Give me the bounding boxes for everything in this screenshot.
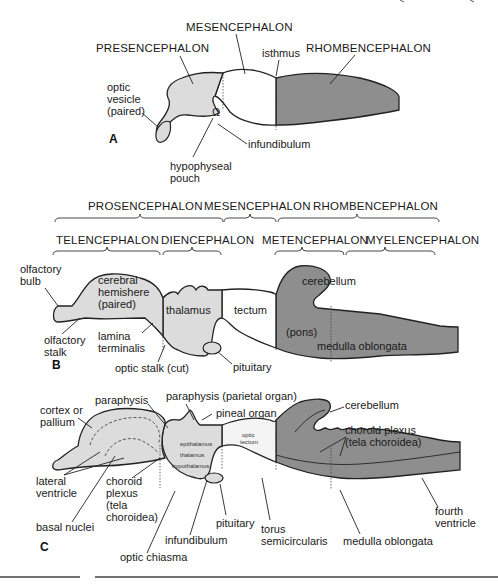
label-cortex: cortex or [40, 404, 83, 416]
label-paraphysis-parietal: paraphysis (parietal organ) [166, 390, 297, 402]
label-choroid-plexus-left: choroid [106, 475, 142, 487]
label-olfactory-bulb: olfactory [20, 263, 62, 275]
svg-text:pouch: pouch [170, 172, 200, 184]
label-olfactory-stalk: olfactory [44, 334, 86, 346]
svg-text:stalk: stalk [44, 346, 67, 358]
label-choroid-plexus-right: choroid plexus [345, 424, 416, 436]
panel-b: PROSENCEPHALON MESENCEPHALON RHOMBENCEPH… [20, 200, 479, 374]
label-mesencephalon: MESENCEPHALON [186, 21, 293, 33]
label-pineal-organ: pineal organ [216, 407, 277, 419]
pituitary-c [205, 473, 223, 483]
label-paraphysis: paraphysis [95, 394, 149, 406]
label-telencephalon: TELENCEPHALON [56, 234, 159, 246]
svg-text:(paired): (paired) [98, 298, 136, 310]
label-hypothalamus: hypothalamus [172, 463, 209, 469]
label-infundibulum-c: infundibulum [165, 534, 227, 546]
rhombencephalon-region [276, 74, 399, 126]
label-hypophyseal-pouch: hypophyseal [170, 160, 232, 172]
svg-text:plexus: plexus [106, 487, 138, 499]
svg-text:tectum: tectum [240, 439, 258, 445]
panel-letter-c: C [40, 540, 49, 554]
brain-diagram: Ω MESENCEPHALON PRESENCEPHALON isthmus R… [0, 0, 498, 587]
label-lamina-terminalis: lamina [98, 330, 131, 342]
label-basal-nuclei: basal nuclei [36, 521, 94, 533]
panel-c: epithalamus thalamus hypothalamus optic … [36, 390, 476, 563]
mesencephalon-region [215, 69, 276, 125]
label-infundibulum: infundibulum [248, 138, 310, 150]
label-rhombencephalon-b: RHOMBENCEPHALON [313, 200, 438, 212]
panel-a: Ω MESENCEPHALON PRESENCEPHALON isthmus R… [96, 21, 431, 184]
label-torus: torus [261, 523, 286, 535]
svg-text:(tela: (tela [106, 499, 128, 511]
label-presencephalon: PRESENCEPHALON [96, 42, 209, 54]
label-pituitary-b: pituitary [233, 361, 272, 373]
panel-letter-b: B [52, 358, 61, 372]
label-cerebellum-b: cerebellum [302, 275, 356, 287]
svg-text:vesicle: vesicle [107, 93, 141, 105]
label-epithalamus: epithalamus [180, 441, 212, 447]
svg-text:ventricle: ventricle [36, 487, 77, 499]
label-prosencephalon: PROSENCEPHALON [88, 200, 203, 212]
label-metencephalon: METENCEPHALON [262, 234, 368, 246]
svg-text:pallium: pallium [40, 416, 75, 428]
label-medulla-b: medulla oblongata [317, 340, 408, 352]
svg-text:(paired): (paired) [107, 105, 145, 117]
svg-text:(tela choroidea): (tela choroidea) [345, 436, 421, 448]
svg-text:ventricle: ventricle [435, 517, 476, 529]
label-cerebellum-c: cerebellum [345, 399, 399, 411]
label-optic-chiasma: optic chiasma [120, 551, 188, 563]
tectum-region [222, 289, 276, 348]
svg-text:choroidea): choroidea) [106, 511, 158, 523]
svg-text:semicircularis: semicircularis [261, 535, 328, 547]
label-thalamus-c: thalamus [180, 452, 204, 458]
label-tectum: tectum [234, 304, 267, 316]
svg-text:terminalis: terminalis [98, 342, 146, 354]
label-optic-stalk: optic stalk (cut) [115, 362, 189, 374]
label-pons: (pons) [286, 326, 317, 338]
label-medulla-c: medulla oblongata [343, 535, 434, 547]
label-cerebral-hemisphere: cerebral [98, 274, 138, 286]
label-lateral-ventricle: lateral [36, 475, 66, 487]
label-mesencephalon-b: MESENCEPHALON [204, 200, 311, 212]
label-isthmus: isthmus [262, 47, 300, 59]
panel-letter-a: A [109, 132, 118, 146]
svg-text:bulb: bulb [20, 275, 41, 287]
svg-text:hemishere: hemishere [98, 286, 149, 298]
label-rhombencephalon: RHOMBENCEPHALON [306, 42, 431, 54]
label-optic-tectum: optic [242, 432, 255, 438]
label-diencephalon: DIENCEPHALON [161, 234, 254, 246]
label-fourth-ventricle: fourth [435, 505, 463, 517]
label-pituitary-c: pituitary [216, 517, 255, 529]
label-thalamus-b: thalamus [166, 304, 211, 316]
label-optic-vesicle: optic [107, 81, 131, 93]
label-myelencephalon: MYELENCEPHALON [366, 234, 479, 246]
svg-text:Ω: Ω [212, 106, 220, 118]
